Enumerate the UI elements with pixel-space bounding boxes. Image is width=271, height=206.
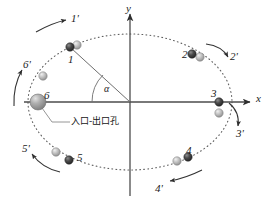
arrow-label-6-prime: 6' bbox=[23, 59, 31, 70]
arrow-6-prime bbox=[14, 70, 22, 106]
sphere-5-light bbox=[52, 148, 60, 156]
angle-alpha-label: α bbox=[104, 83, 109, 94]
diagram-canvas bbox=[0, 0, 271, 206]
sphere-5-dark bbox=[65, 156, 73, 164]
sphere-2-dark bbox=[188, 50, 196, 58]
entrance-exit-hole-annotation: 入口-出口孔 bbox=[71, 117, 119, 126]
sphere-2-light bbox=[196, 53, 204, 61]
arrow-label-1-prime: 1' bbox=[71, 13, 79, 24]
arrow-label-2-prime: 2' bbox=[230, 51, 238, 62]
position-label-4: 4 bbox=[186, 145, 192, 156]
sphere-1-dark bbox=[66, 43, 74, 51]
sphere-3-light bbox=[215, 109, 223, 117]
position-label-2: 2 bbox=[182, 49, 188, 60]
arrow-4-prime bbox=[170, 170, 202, 181]
annotation-leader bbox=[42, 108, 70, 122]
arrow-label-3-prime: 3' bbox=[236, 128, 244, 139]
arrow-1-prime bbox=[36, 20, 66, 32]
x-axis-label: x bbox=[256, 93, 261, 104]
angle-arc bbox=[92, 75, 103, 102]
sphere-3-dark bbox=[215, 98, 223, 106]
sphere-4-light bbox=[173, 157, 181, 165]
position-label-5: 5 bbox=[77, 152, 83, 163]
arrow-5-prime bbox=[32, 154, 60, 172]
radius-line bbox=[71, 48, 130, 102]
y-axis-label: y bbox=[126, 3, 131, 14]
position-label-6: 6 bbox=[44, 90, 50, 101]
arrow-2-prime bbox=[206, 44, 228, 57]
orbit-diagram-figure: y x α 入口-出口孔 1 2 3 4 5 6 1' 2' 3' 4' 5' … bbox=[0, 0, 271, 206]
position-label-1: 1 bbox=[68, 54, 74, 65]
arrow-label-5-prime: 5' bbox=[22, 143, 30, 154]
arrow-label-4-prime: 4' bbox=[155, 183, 163, 194]
position-label-3: 3 bbox=[211, 88, 217, 99]
sphere-6-light bbox=[39, 72, 47, 80]
